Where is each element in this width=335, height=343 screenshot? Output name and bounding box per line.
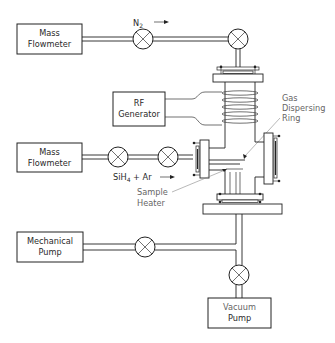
valve-icon[interactable] (108, 147, 128, 167)
chamber-body (209, 138, 264, 194)
mass-flowmeter-mid-label-1: Mass (39, 147, 60, 157)
reactor-tube (225, 82, 255, 148)
valve-icon[interactable] (228, 29, 248, 49)
valve-icon[interactable] (229, 265, 249, 285)
mechanical-pump-label-1: Mechanical (27, 236, 73, 246)
top-flange (213, 65, 263, 82)
right-flange (264, 133, 280, 184)
valve-icon[interactable] (158, 147, 178, 167)
flow-arrow-icon (160, 175, 175, 179)
n2-pipe (82, 37, 240, 70)
svg-text:Dispersing: Dispersing (282, 103, 325, 113)
left-flange (193, 140, 209, 178)
deposition-system-diagram: Mass Flowmeter N2 (0, 0, 335, 343)
svg-text:Gas: Gas (282, 93, 298, 103)
silane-label: SiH4 + Ar (113, 172, 175, 183)
mass-flowmeter-top: Mass Flowmeter (17, 24, 82, 54)
mass-flowmeter-mid-label-2: Flowmeter (28, 158, 72, 168)
svg-text:SiH4 + Ar: SiH4 + Ar (113, 172, 152, 183)
rf-generator-label-1: RF (134, 98, 145, 108)
valve-icon[interactable] (135, 237, 155, 257)
mass-flowmeter-top-label-2: Flowmeter (28, 39, 72, 49)
svg-text:Ring: Ring (282, 113, 300, 123)
flow-arrow-icon (154, 20, 169, 24)
rf-generator: RF Generator (113, 92, 222, 126)
svg-text:Heater: Heater (137, 198, 165, 208)
vacuum-pump: Vacuum Pump (208, 298, 271, 328)
mass-flowmeter-top-label-1: Mass (39, 28, 60, 38)
rf-generator-label-2: Generator (118, 109, 160, 119)
exhaust-pipe (83, 214, 242, 298)
mechanical-pump: Mechanical Pump (17, 232, 83, 262)
svg-text:N2: N2 (133, 18, 143, 29)
bottom-flange (203, 193, 282, 214)
mechanical-pump-label-2: Pump (38, 247, 61, 257)
mass-flowmeter-mid: Mass Flowmeter (17, 143, 82, 172)
valve-icon[interactable] (133, 29, 153, 49)
svg-text:Sample: Sample (137, 187, 168, 197)
n2-label: N2 (133, 18, 169, 29)
vacuum-pump-label-1: Vacuum (223, 302, 256, 312)
rf-coil (222, 91, 258, 123)
vacuum-pump-label-2: Pump (228, 313, 251, 323)
